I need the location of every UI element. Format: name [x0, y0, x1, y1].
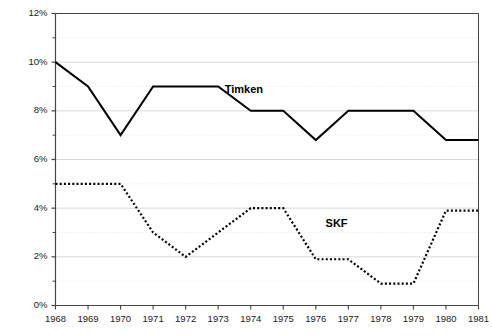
x-tick-label: 1979 [403, 313, 424, 324]
x-tick-label: 1976 [305, 313, 326, 324]
series-label-skf: SKF [326, 217, 348, 229]
y-tick-label: 4% [34, 202, 48, 213]
y-tick-label: 12% [28, 7, 48, 18]
y-tick-label: 8% [34, 104, 48, 115]
x-tick-label: 1973 [208, 313, 229, 324]
x-tick-label: 1980 [435, 313, 456, 324]
y-axis-labels: 0%2%4%6%8%10%12% [28, 7, 48, 310]
x-tick-label: 1981 [468, 313, 489, 324]
x-tick-label: 1970 [110, 313, 131, 324]
x-tick-label: 1977 [338, 313, 359, 324]
x-tick-label: 1975 [273, 313, 294, 324]
x-tick-label: 1969 [77, 313, 98, 324]
series-line-skf [56, 184, 479, 284]
series-line-timken [56, 62, 479, 140]
series-label-timken: Timken [225, 83, 264, 95]
y-tick-label: 2% [34, 250, 48, 261]
x-tick-label: 1971 [143, 313, 164, 324]
x-tick-label: 1978 [370, 313, 391, 324]
y-tick-label: 10% [28, 56, 48, 67]
data-series [56, 62, 479, 283]
x-axis-labels: 1968196919701971197219731974197519761977… [45, 313, 489, 324]
gridlines-major [56, 62, 479, 257]
chart-page: 0%2%4%6%8%10%12% 19681969197019711972197… [0, 0, 492, 336]
x-tick-label: 1972 [175, 313, 196, 324]
x-tick-label: 1968 [45, 313, 66, 324]
y-tick-label: 0% [34, 299, 48, 310]
y-tick-label: 6% [34, 153, 48, 164]
x-tick-label: 1974 [240, 313, 261, 324]
line-chart: 0%2%4%6%8%10%12% 19681969197019711972197… [0, 0, 492, 336]
